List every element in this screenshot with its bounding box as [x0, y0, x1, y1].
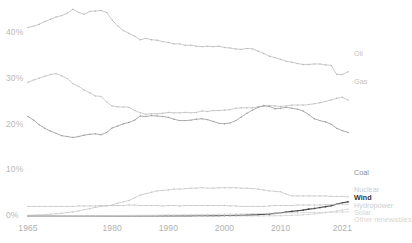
series-point-marker	[229, 213, 230, 214]
series-point-marker	[123, 205, 124, 206]
series-point-marker	[297, 214, 298, 215]
series-point-marker	[229, 215, 230, 216]
series-point-marker	[229, 122, 230, 123]
series-coal	[27, 105, 348, 138]
series-point-marker	[286, 193, 287, 194]
series-point-marker	[89, 11, 90, 12]
y-tick-label: 0%	[6, 210, 19, 220]
series-point-marker	[201, 118, 202, 119]
series-point-marker	[207, 45, 208, 46]
series-point-marker	[235, 187, 236, 188]
series-point-marker	[61, 215, 62, 216]
series-point-marker	[218, 123, 219, 124]
series-point-marker	[106, 12, 107, 13]
series-point-marker	[286, 61, 287, 62]
series-point-marker	[123, 106, 124, 107]
series-point-marker	[291, 205, 292, 206]
series-point-marker	[123, 201, 124, 202]
series-point-marker	[330, 65, 331, 66]
series-point-marker	[213, 215, 214, 216]
series-point-marker	[184, 120, 185, 121]
series-point-marker	[78, 215, 79, 216]
series-point-marker	[61, 135, 62, 136]
series-point-marker	[151, 205, 152, 206]
series-label-coal[interactable]: Coal	[354, 169, 369, 176]
series-point-marker	[263, 53, 264, 54]
series-point-marker	[112, 105, 113, 106]
series-point-marker	[55, 133, 56, 134]
series-point-marker	[128, 200, 129, 201]
series-point-marker	[218, 110, 219, 111]
series-gas	[27, 73, 348, 115]
series-point-marker	[257, 51, 258, 52]
series-point-marker	[72, 206, 73, 207]
series-point-marker	[241, 187, 242, 188]
series-point-marker	[302, 204, 303, 205]
series-point-marker	[319, 207, 321, 209]
series-point-marker	[83, 215, 84, 216]
series-point-marker	[151, 39, 152, 40]
series-point-marker	[50, 206, 51, 207]
series-point-marker	[190, 214, 191, 215]
series-point-marker	[286, 105, 287, 106]
series-point-marker	[39, 77, 40, 78]
series-label-other-renewables[interactable]: Other renewables	[354, 216, 412, 223]
series-point-marker	[145, 205, 146, 206]
series-point-marker	[61, 75, 62, 76]
series-point-marker	[134, 119, 135, 120]
series-point-marker	[246, 215, 247, 216]
series-point-marker	[151, 192, 152, 193]
series-point-marker	[89, 208, 90, 209]
series-point-marker	[145, 116, 146, 117]
series-point-marker	[280, 215, 281, 216]
series-point-marker	[100, 205, 101, 206]
series-point-marker	[179, 188, 180, 189]
series-point-marker	[257, 215, 258, 216]
series-point-marker	[257, 107, 258, 108]
series-point-marker	[55, 215, 56, 216]
x-tick-label: 1980	[103, 223, 122, 233]
series-point-marker	[33, 206, 34, 207]
series-line	[28, 74, 348, 115]
series-point-marker	[128, 215, 129, 216]
series-point-marker	[235, 48, 236, 49]
series-point-marker	[156, 115, 157, 116]
series-point-marker	[83, 89, 84, 90]
series-point-marker	[184, 214, 185, 215]
series-label-oil[interactable]: Oil	[354, 50, 363, 57]
series-point-marker	[224, 215, 225, 216]
series-point-marker	[117, 205, 118, 206]
series-point-marker	[61, 206, 62, 207]
series-point-marker	[201, 205, 202, 206]
series-point-marker	[347, 208, 348, 209]
series-point-marker	[162, 113, 163, 114]
series-lines-layer	[27, 9, 349, 217]
series-point-marker	[173, 119, 174, 120]
series-point-marker	[190, 112, 191, 113]
series-point-marker	[196, 45, 197, 46]
y-tick-label: 40%	[6, 27, 23, 37]
series-point-marker	[151, 113, 152, 114]
series-point-marker	[347, 99, 348, 100]
series-point-marker	[134, 215, 135, 216]
series-point-marker	[314, 212, 315, 213]
series-point-marker	[336, 98, 337, 99]
series-point-marker	[50, 74, 51, 75]
series-point-marker	[286, 215, 287, 216]
series-point-marker	[325, 212, 326, 213]
series-point-marker	[95, 133, 96, 134]
series-point-marker	[269, 106, 270, 107]
series-point-marker	[308, 214, 309, 215]
series-point-marker	[269, 205, 270, 206]
series-point-marker	[67, 206, 68, 207]
series-point-marker	[252, 107, 253, 108]
series-point-marker	[336, 74, 337, 75]
series-point-marker	[27, 116, 28, 117]
series-label-gas[interactable]: Gas	[354, 78, 367, 85]
series-point-marker	[55, 206, 56, 207]
series-nuclear	[27, 187, 348, 216]
series-point-marker	[78, 205, 79, 206]
series-point-marker	[72, 83, 73, 84]
series-point-marker	[83, 209, 84, 210]
